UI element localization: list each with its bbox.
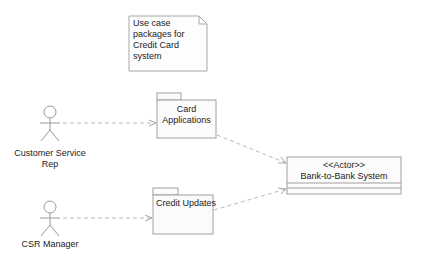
package-label-line: Applications [157, 115, 216, 126]
diagram-canvas [0, 0, 422, 258]
actor-head-icon [44, 201, 56, 213]
package-label-line: Credit Updates [156, 198, 216, 209]
package-label-credit-updates: Credit Updates [156, 198, 216, 209]
package-tab-icon [153, 188, 178, 195]
note-line: system [133, 51, 203, 62]
actor-label-line: Rep [10, 159, 90, 170]
note-text: Use case packages for Credit Card system [133, 18, 203, 62]
note-line: Use case [133, 18, 203, 29]
note-line: Credit Card [133, 40, 203, 51]
actor-label-line: CSR Manager [10, 239, 90, 250]
package-tab-icon [157, 93, 181, 100]
actor-csr-manager[interactable] [40, 201, 60, 236]
package-label-card-applications: Card Applications [157, 104, 216, 126]
class-label-bank-to-bank: <<Actor>> Bank-to-Bank System [287, 160, 401, 182]
class-stereotype: <<Actor>> [287, 160, 401, 171]
arrowhead-icon [278, 188, 286, 194]
package-label-line: Card [157, 104, 216, 115]
actor-label-csr-manager: CSR Manager [10, 239, 90, 250]
actor-label-customer-service-rep: Customer Service Rep [10, 148, 90, 170]
note-line: packages for [133, 29, 203, 40]
actor-head-icon [44, 106, 56, 118]
actor-customer-service-rep[interactable] [40, 106, 60, 141]
class-name: Bank-to-Bank System [287, 171, 401, 182]
actor-label-line: Customer Service [10, 148, 90, 159]
arrowhead-icon [278, 157, 286, 163]
dependency-card-applications-to-bank [217, 135, 286, 163]
dependency-credit-updates-to-bank [214, 189, 286, 210]
package-credit-updates[interactable] [153, 188, 213, 234]
